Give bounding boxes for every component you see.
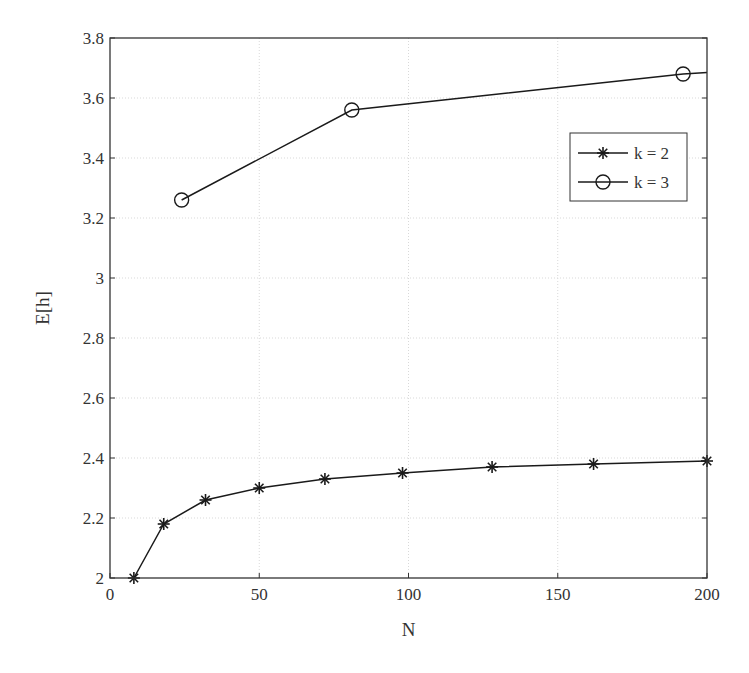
grid [110,38,707,578]
y-tick-label: 2.2 [83,509,104,528]
y-tick-label: 3 [96,269,105,288]
legend-label: k = 2 [634,144,669,163]
legend: k = 2k = 3 [570,133,687,201]
x-axis-label: N [402,619,416,640]
legend-label: k = 3 [634,173,669,192]
star-marker [200,494,212,506]
y-tick-label: 2.8 [83,329,104,348]
x-tick-label: 0 [106,585,115,604]
y-tick-label: 3.4 [83,149,105,168]
y-tick-label: 2 [96,569,105,588]
y-tick-label: 3.8 [83,29,104,48]
y-axis-label: E[h] [32,291,53,325]
series-line [134,461,707,578]
y-tick-label: 2.6 [83,389,104,408]
star-marker [597,147,609,159]
y-tick-label: 3.2 [83,209,104,228]
star-marker [319,473,331,485]
star-marker [158,518,170,530]
star-marker [397,467,409,479]
star-marker [253,482,265,494]
x-tick-label: 150 [545,585,571,604]
chart: 05010015020022.22.42.62.833.23.43.63.8 N… [0,0,749,673]
star-marker [486,461,498,473]
star-marker [588,458,600,470]
y-tick-label: 3.6 [83,89,104,108]
legend-box [570,133,687,201]
y-tick-label: 2.4 [83,449,105,468]
x-tick-label: 50 [251,585,268,604]
x-tick-label: 200 [694,585,720,604]
line-chart: 05010015020022.22.42.62.833.23.43.63.8 N… [0,0,749,673]
x-tick-label: 100 [396,585,422,604]
